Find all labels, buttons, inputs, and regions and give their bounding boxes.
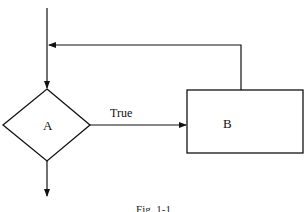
flowchart-svg: A True B — [0, 0, 307, 212]
node-b-label: B — [223, 116, 232, 131]
node-a-label: A — [43, 118, 53, 133]
figure-caption: Fig. 1-1 — [0, 203, 307, 212]
process-box-b — [187, 90, 303, 153]
true-edge-label: True — [110, 106, 132, 120]
loop-back-line — [90, 45, 241, 90]
flowchart-canvas: A True B Fig. 1-1 — [0, 0, 307, 212]
